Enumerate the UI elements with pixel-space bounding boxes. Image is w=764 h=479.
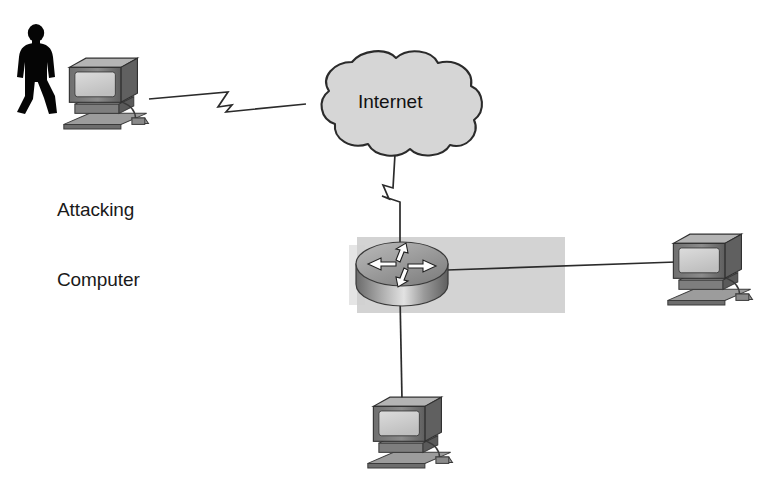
- link-attacker-to-internet: [149, 92, 306, 112]
- attacking-computer-icon: [64, 58, 149, 129]
- network-diagram-canvas: Internet: [0, 0, 764, 479]
- internet-cloud-label: Internet: [358, 91, 423, 112]
- person-silhouette-icon: [17, 24, 57, 114]
- right-computer-icon: [668, 234, 753, 305]
- attacking-computer-label-line1: Attacking: [57, 198, 140, 221]
- attacking-computer-label: Attacking Computer: [57, 152, 140, 337]
- internet-cloud-icon: Internet: [322, 51, 482, 156]
- bottom-computer-icon: [368, 397, 453, 468]
- attacking-computer-label-line2: Computer: [57, 268, 140, 291]
- router-icon: [356, 242, 448, 306]
- link-internet-to-router: [382, 154, 400, 250]
